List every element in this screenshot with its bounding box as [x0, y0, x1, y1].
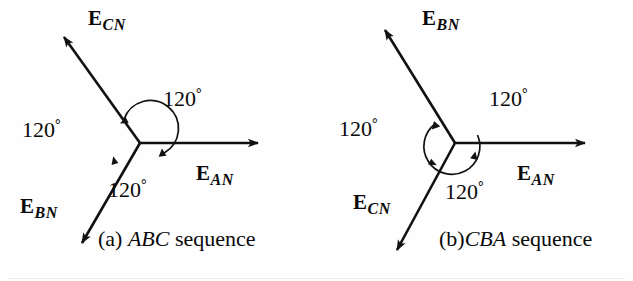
angle-label-bottom-value: 120: [445, 179, 478, 204]
angle-label-bottom-value: 120: [108, 177, 141, 202]
vector-label-e-cn-main: E: [88, 6, 102, 30]
figure-canvas: ECN EAN EBN 120° 120° 120° (a) ABC seque…: [0, 0, 633, 281]
angle-label-left-value: 120: [22, 117, 55, 142]
vector-label-e-cn-sub: CN: [103, 16, 126, 33]
angle-label-left-value: 120: [339, 116, 372, 141]
degree-symbol-icon: °: [141, 177, 147, 192]
vector-label-e-an-sub: AN: [211, 171, 234, 188]
degree-symbol-icon: °: [522, 86, 528, 101]
vector-label-e-bn: EBN: [20, 196, 58, 221]
vector-label-e-bn-main: E: [20, 194, 34, 218]
vector-label-e-cn: ECN: [88, 8, 126, 33]
panel-caption-abc: (a) ABC sequence: [98, 228, 256, 250]
panel-cba-sequence: EBN EAN ECN 120° 120° 120° (b)CBA sequen…: [317, 0, 633, 281]
angle-label-bottom: 120°: [445, 180, 484, 203]
angle-label-top: 120°: [163, 87, 202, 110]
vector-label-e-bn-main: E: [422, 6, 436, 30]
vector-label-e-an: EAN: [517, 163, 555, 188]
angle-label-top: 120°: [489, 87, 528, 110]
bottom-divider: [8, 278, 625, 279]
vector-e-cn: [64, 37, 140, 143]
vector-label-e-an-main: E: [517, 161, 531, 185]
caption-suffix: sequence: [169, 226, 255, 251]
panel-caption-cba: (b)CBA sequence: [439, 228, 592, 250]
angle-label-left: 120°: [339, 117, 378, 140]
degree-symbol-icon: °: [55, 117, 61, 132]
caption-suffix: sequence: [506, 226, 592, 251]
panel-abc-sequence: ECN EAN EBN 120° 120° 120° (a) ABC seque…: [0, 0, 316, 281]
vector-label-e-bn-sub: BN: [437, 16, 460, 33]
caption-sequence-name: CBA: [465, 226, 507, 251]
angle-label-left: 120°: [22, 118, 61, 141]
arc-arrowhead-lower: [112, 156, 119, 165]
vector-label-e-an-sub: AN: [532, 171, 555, 188]
vector-label-e-bn-sub: BN: [35, 204, 58, 221]
vector-label-e-cn-sub: CN: [368, 200, 391, 217]
vector-e-bn: [385, 30, 455, 143]
vector-label-e-cn: ECN: [353, 192, 391, 217]
vector-label-e-an-main: E: [196, 161, 210, 185]
degree-symbol-icon: °: [372, 116, 378, 131]
caption-sequence-name: ABC: [128, 226, 170, 251]
vector-label-e-cn-main: E: [353, 190, 367, 214]
degree-symbol-icon: °: [478, 179, 484, 194]
vector-label-e-bn: EBN: [422, 8, 460, 33]
caption-prefix: (b): [439, 226, 465, 251]
angle-label-top-value: 120: [163, 86, 196, 111]
caption-prefix: (a): [98, 226, 128, 251]
vector-label-e-an: EAN: [196, 163, 234, 188]
degree-symbol-icon: °: [196, 86, 202, 101]
arc-arrowhead-upper: [432, 121, 440, 130]
angle-label-bottom: 120°: [108, 178, 147, 201]
arc-arrowhead-right: [470, 151, 477, 160]
angle-label-top-value: 120: [489, 86, 522, 111]
